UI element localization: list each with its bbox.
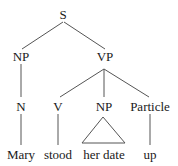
- node-np-subject: NP: [13, 49, 30, 64]
- leaf-mary: Mary: [7, 147, 36, 162]
- node-v: V: [53, 99, 63, 114]
- np-triangle: [82, 117, 125, 143]
- edge-vp-v: [60, 69, 104, 97]
- leaf-her-date: her date: [83, 147, 125, 162]
- edge-s-vp: [64, 22, 105, 49]
- node-particle: Particle: [130, 99, 170, 114]
- node-np-object: NP: [96, 99, 113, 114]
- node-n: N: [16, 99, 26, 114]
- leaf-stood: stood: [44, 147, 73, 162]
- node-vp: VP: [97, 49, 114, 64]
- syntax-tree: S NP VP N V NP Particle Mary stood her d…: [0, 0, 178, 166]
- node-s: S: [59, 7, 66, 22]
- edge-vp-particle: [104, 69, 149, 97]
- leaf-up: up: [144, 147, 157, 162]
- edge-s-np: [22, 22, 63, 49]
